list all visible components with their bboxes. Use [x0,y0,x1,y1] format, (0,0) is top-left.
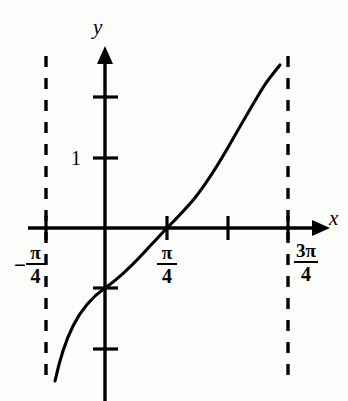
fraction-numerator: π [160,243,174,263]
y-tick-label-1: 1 [71,148,81,168]
x-tick-label-minus-pi-over-4: − π 4 [14,243,45,286]
fraction-denominator: 4 [301,263,311,284]
x-tick-label-3pi-over-4: 3π 4 [294,241,318,284]
fraction-numerator: π [28,243,42,263]
fraction-pi-over-4: π 4 [26,243,45,286]
x-tick-label-pi-over-4: π 4 [157,243,177,286]
tangent-function-graph [0,0,348,401]
y-axis-label: y [93,17,102,38]
y-axis-arrowhead [97,46,113,64]
fraction-numerator: 3π [294,241,318,261]
fraction-denominator: 4 [30,265,40,286]
x-axis [28,220,330,236]
fraction-denominator: 4 [162,265,172,286]
x-axis-arrowhead [312,220,330,236]
minus-sign: − [14,253,26,278]
x-axis-label: x [329,208,338,229]
